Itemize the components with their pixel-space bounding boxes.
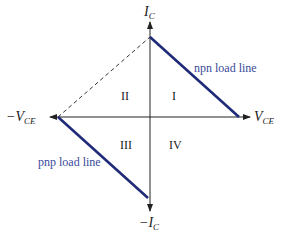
dashed-boundary-line: [58, 37, 150, 117]
neg-vce-axis-label: −VCE: [6, 109, 36, 126]
load-line-diagram: IC −IC VCE −VCE I II III IV npn load lin…: [0, 0, 291, 237]
npn-load-line-label: npn load line: [194, 61, 257, 75]
quadrant-4-label: IV: [169, 138, 182, 152]
npn-load-line: [150, 37, 239, 117]
neg-ic-axis-label: −IC: [139, 215, 160, 232]
pnp-load-line-label: pnp load line: [38, 155, 101, 169]
quadrant-2-label: II: [121, 89, 129, 103]
quadrant-1-label: I: [172, 89, 176, 103]
ic-axis-label: IC: [143, 4, 156, 21]
vce-axis-label: VCE: [254, 109, 275, 126]
quadrant-3-label: III: [120, 138, 132, 152]
